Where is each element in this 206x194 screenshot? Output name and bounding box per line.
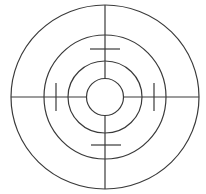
inner-ring	[87, 79, 124, 116]
crosshair-group	[11, 5, 199, 189]
target-reticle-diagram	[0, 0, 206, 194]
